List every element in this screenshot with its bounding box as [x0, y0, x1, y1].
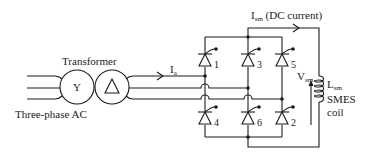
thyristor-label-6: 6 [257, 117, 262, 128]
smes-label: SMES [327, 93, 356, 105]
three-phase-input-lines [27, 76, 62, 99]
voltage-arrow-icon [309, 80, 314, 125]
transformer-label: Transformer [62, 55, 117, 67]
inductance-label: Lsm [327, 78, 342, 92]
coil-label: coil [327, 106, 344, 118]
dc-current-label: Ism (DC current) [251, 9, 322, 23]
thyristor-label-5: 5 [291, 59, 296, 70]
thyristor-label-2: 2 [291, 117, 296, 128]
thyristor-label-1: 1 [214, 59, 219, 70]
thyristor-label-3: 3 [257, 59, 262, 70]
three-phase-ac-label: Three-phase AC [15, 108, 87, 120]
bridge-structure [205, 24, 319, 147]
wye-symbol: Y [73, 81, 81, 93]
delta-icon [105, 79, 119, 93]
ac-current-label: Ia [170, 63, 178, 77]
thyristor-label-4: 4 [214, 117, 219, 128]
smes-inductor-icon [314, 76, 324, 102]
voltage-label: Vsm [297, 70, 314, 84]
smes-circuit-diagram: 1 3 5 4 6 2 Transformer Y Three-phase AC… [0, 0, 370, 155]
delta-winding [95, 70, 129, 104]
transformer [60, 70, 129, 104]
